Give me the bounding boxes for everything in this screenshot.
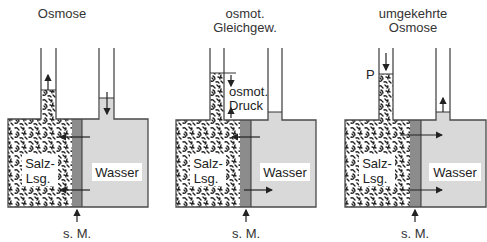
water-label: Wasser [433, 165, 477, 180]
panel-title: umgekehrte [379, 6, 448, 21]
semipermeable-membrane [410, 120, 421, 207]
salt-tube-fluid [210, 73, 224, 121]
pressure-symbol: P [366, 67, 375, 82]
panel-reverse-osmosis: umgekehrte Osmose P Salz- Lsg. Wasser s.… [345, 6, 486, 241]
panel-title: Osmose [389, 20, 437, 35]
salt-tube-fluid [41, 90, 56, 120]
membrane-label: s. M. [401, 226, 429, 241]
salt-label: Salz- [25, 156, 55, 171]
salt-tube-fluid [379, 74, 393, 121]
osmotic-pressure-label: osmot. [229, 84, 268, 99]
salt-label: Lsg. [194, 171, 219, 186]
water-label: Wasser [263, 165, 307, 180]
panel-osmose: Osmose Salz- Lsg. Wasser s. M. [8, 6, 148, 241]
salt-label: Lsg. [26, 171, 51, 186]
semipermeable-membrane [240, 120, 251, 207]
osmosis-diagram: Osmose Salz- Lsg. Wasser s. M. osmot. Gl… [0, 0, 487, 242]
panel-osmotic-equilibrium: osmot. Gleichgew. osmot. Druck Salz- Lsg… [176, 6, 316, 241]
semipermeable-membrane [72, 119, 82, 207]
panel-title: osmot. [225, 6, 264, 21]
salt-label: Lsg. [363, 171, 388, 186]
panel-title: Gleichgew. [213, 20, 277, 35]
membrane-label: s. M. [232, 226, 260, 241]
osmotic-pressure-label: Druck [229, 98, 263, 113]
water-tube-fluid [436, 112, 450, 121]
salt-label: Salz- [362, 156, 392, 171]
water-label: Wasser [95, 165, 139, 180]
membrane-label: s. M. [63, 226, 91, 241]
panel-title: Osmose [38, 6, 86, 21]
water-tube-fluid [268, 112, 282, 121]
salt-label: Salz- [193, 156, 223, 171]
